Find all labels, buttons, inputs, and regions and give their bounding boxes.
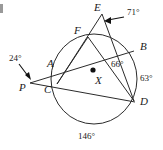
chord-F-C [57,37,88,84]
point-label-D: D [140,96,148,107]
point-label-E: E [94,2,101,13]
point-label-B: B [140,41,147,52]
point-label-A: A [47,58,54,69]
secant-E-B-D [102,14,134,101]
point-label-F: F [74,25,81,36]
geometry-figure: E F B A P C D X 71° 24° 66° 63° 146° [0,0,163,150]
center-dot-x [90,67,95,72]
angle-label-66: 66° [111,60,124,69]
point-label-C: C [44,84,51,95]
circle-x [51,34,137,124]
angle-label-71: 71° [127,8,140,17]
arc-label-63: 63° [140,74,153,83]
arc-label-146: 146° [78,132,95,141]
point-label-X: X [95,75,102,86]
figure-canvas [0,0,163,150]
point-label-P: P [19,82,26,93]
angle-label-24: 24° [9,54,22,63]
